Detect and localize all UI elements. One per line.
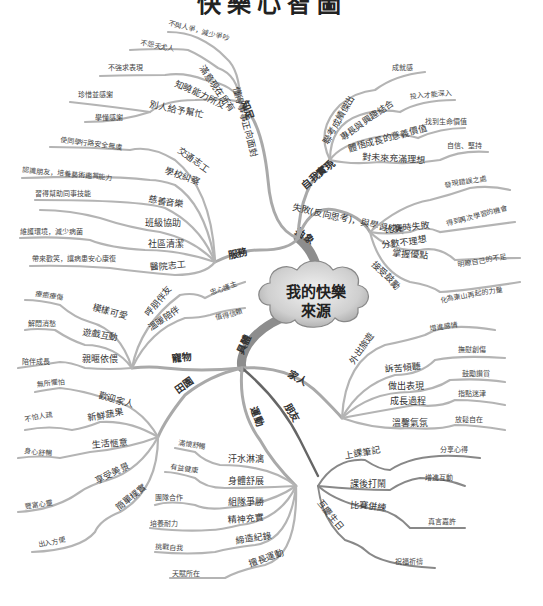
svg-text:分享心得: 分享心得 [440, 445, 468, 454]
branch-zhi-zu: 知足 懂得事事正向面對 滿意現在所有 不與人爭，減少爭吵 知曉能力所及 不怨天尤… [70, 18, 260, 158]
svg-text:培養耐力: 培養耐力 [150, 519, 178, 528]
center-line-2: 來源 [301, 302, 331, 320]
svg-text:增進互動: 增進互動 [425, 473, 453, 482]
svg-text:比賽併練: 比賽併練 [350, 499, 387, 513]
svg-text:化為東山再起的力量: 化為東山再起的力量 [439, 285, 503, 305]
svg-text:朋友: 朋友 [282, 400, 303, 424]
svg-text:成就感: 成就感 [392, 63, 413, 72]
branch-peng-you: 朋友 上課筆記 分享心得 課後打鬧 增進互動 比賽併練 真言嘉許 互慶生日 祝福… [282, 400, 480, 568]
svg-text:服務: 服務 [227, 245, 250, 261]
svg-text:天賦所在: 天賦所在 [172, 569, 200, 578]
svg-text:田園: 田園 [173, 375, 196, 395]
svg-text:遊戲互動: 遊戲互動 [81, 326, 118, 343]
svg-text:歡迎家人: 歡迎家人 [97, 389, 135, 409]
svg-text:增進感情: 增進感情 [429, 321, 458, 334]
branch-chong-wu: 寵物 呼朋伴友 忠心護主 溫暖陪伴 值得信賴 模樣可愛 療癒療傷 遊戲互動 解悶… [18, 279, 245, 369]
svg-text:無所懼怕: 無所懼怕 [37, 377, 66, 388]
svg-text:真言嘉許: 真言嘉許 [428, 517, 456, 526]
svg-text:模樣可愛: 模樣可愛 [91, 301, 129, 321]
center-cloud: 我的快樂 來源 [259, 261, 369, 327]
svg-text:慈善音樂: 慈善音樂 [147, 194, 184, 210]
svg-text:懂得事事正向面對: 懂得事事正向面對 [231, 85, 260, 157]
svg-text:使同學行路安全無虞: 使同學行路安全無虞 [59, 135, 123, 153]
branch-yun-dong: 運動 汗水淋漓 滿懷舒暢 身體舒展 有益健康 組隊爭勝 團隊合作 精神充實 培養… [150, 405, 296, 578]
svg-text:明瞭自己的不足: 明瞭自己的不足 [457, 252, 507, 269]
svg-text:社區清潔: 社區清潔 [148, 238, 184, 249]
svg-text:汗水淋漓: 汗水淋漓 [228, 453, 264, 464]
svg-text:做出表現: 做出表現 [388, 380, 424, 391]
svg-text:寵物: 寵物 [171, 351, 192, 365]
branch-jia-ren: 家人 外出旅遊 增進感情 訴苦傾聽 撫慰創傷 做出表現 鼓勵讚賞 成長過程 指點… [286, 321, 505, 430]
svg-text:撫慰創傷: 撫慰創傷 [458, 345, 486, 354]
svg-text:課後打鬧: 課後打鬧 [350, 478, 386, 489]
svg-text:陪伴成長: 陪伴成長 [22, 357, 50, 366]
svg-text:上課筆記: 上課筆記 [344, 444, 381, 461]
svg-text:維護環境，減少病菌: 維護環境，減少病菌 [20, 227, 83, 236]
svg-text:組隊爭勝: 組隊爭勝 [228, 496, 264, 507]
svg-text:不怨天尤人: 不怨天尤人 [139, 38, 175, 53]
svg-text:溫馨氣氛: 溫馨氣氛 [392, 417, 428, 428]
svg-text:身體舒展: 身體舒展 [228, 475, 264, 486]
svg-text:不怕人疏: 不怕人疏 [24, 410, 53, 424]
branch-ju-ti: 具體 [233, 318, 282, 368]
svg-text:祝福祈禱: 祝福祈禱 [395, 557, 423, 566]
svg-text:鼓勵讚賞: 鼓勵讚賞 [462, 369, 490, 378]
svg-text:自我實現: 自我實現 [299, 156, 337, 191]
link-tian-yuan [158, 368, 242, 437]
svg-text:締造紀錄: 締造紀錄 [235, 530, 272, 546]
link-chong-wu [132, 367, 242, 370]
svg-text:出入方便: 出入方便 [37, 535, 66, 550]
svg-text:不強求表現: 不強求表現 [108, 63, 143, 72]
svg-text:珍惜並感謝: 珍惜並感謝 [78, 90, 113, 99]
svg-text:新鮮蔬果: 新鮮蔬果 [87, 406, 124, 423]
svg-text:學懂感謝: 學懂感謝 [95, 113, 123, 122]
svg-text:比賽時失敗: 比賽時失敗 [384, 219, 430, 235]
svg-text:自信、堅持: 自信、堅持 [447, 141, 482, 150]
svg-text:親暱依偎: 親暱依偎 [82, 353, 118, 364]
svg-text:習得幫助同事技能: 習得幫助同事技能 [35, 189, 91, 198]
center-line-1: 我的快樂 [286, 283, 347, 301]
svg-text:投入才能深入: 投入才能深入 [410, 88, 453, 101]
svg-text:成長過程: 成長過程 [390, 395, 426, 406]
svg-text:互慶生日: 互慶生日 [315, 497, 347, 532]
svg-text:解悶消愁: 解悶消愁 [28, 319, 56, 328]
svg-text:班級協助: 班級協助 [145, 217, 181, 228]
svg-text:帶來歡笑，讓病患安心康復: 帶來歡笑，讓病患安心康復 [32, 254, 116, 263]
svg-text:值得信賴: 值得信賴 [214, 306, 243, 322]
svg-text:團隊合作: 團隊合作 [155, 493, 183, 502]
mind-map: 抽象 知足 懂得事事正向面對 滿意現在所有 不與人爭，減少爭吵 知曉能力所及 不… [0, 0, 543, 606]
svg-text:分數不理想: 分數不理想 [381, 233, 427, 250]
svg-text:放鬆自在: 放鬆自在 [455, 415, 483, 424]
svg-text:豐富心靈: 豐富心靈 [24, 499, 53, 512]
svg-text:醫院志工: 醫院志工 [149, 258, 186, 272]
svg-text:忠心護主: 忠心護主 [209, 279, 238, 297]
link-yun-dong [241, 368, 296, 486]
svg-text:指點迷津: 指點迷津 [458, 389, 486, 398]
svg-text:找到生命價值: 找到生命價值 [425, 117, 467, 126]
branch-zi-wo-shi-xian: 自我實現 聯考成績傑出 成就感 專長與興趣結合 投入才能深入 體悟成長的意義價值… [299, 63, 488, 191]
svg-text:簡單樸實: 簡單樸實 [113, 481, 148, 513]
branch-fu-wu: 服務 交通志工 使同學行路安全無虞 學校糾察 認識朋友，培養藝術鑑賞能力 慈善音… [20, 135, 250, 275]
svg-text:認識朋友，培養藝術鑑賞能力: 認識朋友，培養藝術鑑賞能力 [22, 165, 113, 182]
svg-text:精神充實: 精神充實 [227, 511, 264, 525]
